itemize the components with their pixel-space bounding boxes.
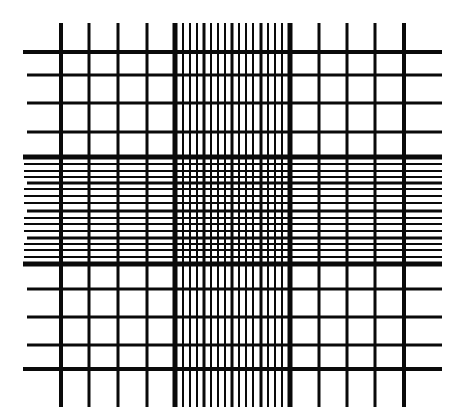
- hemocytometer-grid: [0, 0, 458, 418]
- grid-canvas: [0, 0, 458, 418]
- background: [0, 0, 458, 418]
